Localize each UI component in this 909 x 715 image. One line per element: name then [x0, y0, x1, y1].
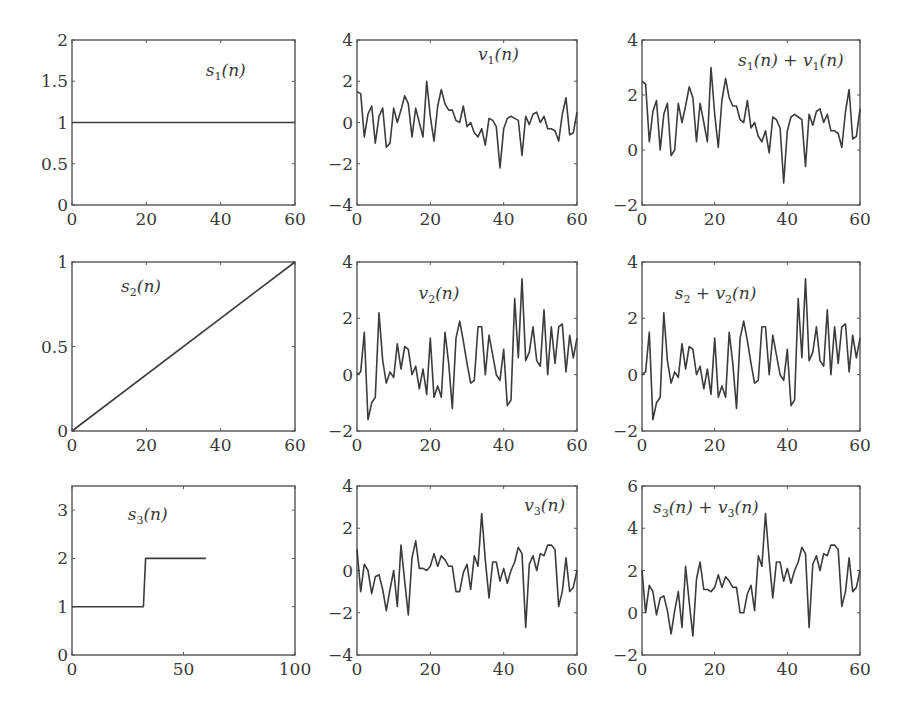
data-line-s2 — [72, 262, 295, 431]
x-tick-label: 0 — [67, 209, 78, 229]
x-tick-label: 20 — [704, 435, 726, 455]
x-tick-label: 60 — [849, 209, 871, 229]
x-tick-label: 60 — [849, 659, 871, 679]
y-tick-label: −2 — [328, 421, 353, 441]
x-tick-label: 20 — [420, 209, 442, 229]
x-tick-label: 40 — [210, 435, 232, 455]
panel-label-s1: s1(n) — [206, 60, 246, 83]
x-tick-label: 40 — [777, 209, 799, 229]
x-tick-label: 60 — [566, 659, 588, 679]
y-tick-label: 2 — [342, 518, 353, 538]
y-tick-label: 1.5 — [41, 71, 68, 91]
y-tick-label: 2 — [627, 85, 638, 105]
subplot-s2v2: 0204060−2024s2 + v2(n) — [613, 252, 871, 455]
x-tick-label: 20 — [136, 209, 158, 229]
x-tick-label: 0 — [637, 435, 648, 455]
y-tick-label: 2 — [627, 308, 638, 328]
x-tick-label: 0 — [352, 209, 363, 229]
y-tick-label: 2 — [57, 30, 68, 50]
subplot-v1: 0204060−4−2024v1(n) — [328, 30, 588, 229]
panel-label-s1v1: s1(n) + v1(n) — [738, 50, 844, 73]
x-tick-label: 60 — [566, 435, 588, 455]
subplot-s1v1: 0204060−2024s1(n) + v1(n) — [613, 30, 871, 229]
x-tick-label: 0 — [67, 659, 78, 679]
y-tick-label: 4 — [627, 30, 638, 50]
panel-label-v2: v2(n) — [419, 283, 460, 306]
x-tick-label: 60 — [566, 209, 588, 229]
y-tick-label: 1 — [57, 597, 68, 617]
y-tick-label: 2 — [342, 71, 353, 91]
x-tick-label: 0 — [67, 435, 78, 455]
x-tick-label: 20 — [704, 659, 726, 679]
y-tick-label: 1 — [57, 113, 68, 133]
y-tick-label: −2 — [328, 603, 353, 623]
y-tick-label: 6 — [627, 476, 638, 496]
axes-frame — [72, 486, 295, 655]
x-tick-label: 50 — [173, 659, 195, 679]
y-tick-label: −2 — [613, 421, 638, 441]
y-tick-label: 0 — [57, 645, 68, 665]
y-tick-label: −4 — [328, 195, 353, 215]
data-line-s3v3 — [642, 514, 860, 637]
panel-label-s2: s2(n) — [121, 276, 161, 299]
x-tick-label: 40 — [777, 435, 799, 455]
data-line-v3 — [357, 514, 577, 628]
panel-label-s3: s3(n) — [128, 504, 168, 527]
x-tick-label: 0 — [352, 659, 363, 679]
y-tick-label: 0 — [627, 140, 638, 160]
axes-frame — [357, 262, 577, 431]
x-tick-label: 0 — [637, 659, 648, 679]
y-tick-label: 4 — [342, 252, 353, 272]
y-tick-label: 4 — [627, 252, 638, 272]
subplot-s1: 020406000.511.52s1(n) — [41, 30, 306, 229]
y-tick-label: 0.5 — [41, 154, 68, 174]
y-tick-label: 1 — [57, 252, 68, 272]
x-tick-label: 0 — [352, 435, 363, 455]
figure-3x3-grid: 020406000.511.52s1(n)0204060−4−2024v1(n)… — [0, 0, 909, 715]
panel-label-s3v3: s3(n) + v3(n) — [653, 497, 759, 520]
y-tick-label: 0 — [342, 365, 353, 385]
y-tick-label: 0 — [57, 195, 68, 215]
y-tick-label: −4 — [328, 645, 353, 665]
y-tick-label: 4 — [627, 518, 638, 538]
x-tick-label: 60 — [284, 435, 306, 455]
y-tick-label: 0 — [342, 561, 353, 581]
subplot-s2: 020406000.51s2(n) — [41, 252, 306, 455]
subplot-v3: 0204060−4−2024v3(n) — [328, 476, 588, 679]
data-line-s3 — [72, 558, 206, 606]
y-tick-label: 0.5 — [41, 337, 68, 357]
y-tick-label: 2 — [57, 548, 68, 568]
x-tick-label: 100 — [279, 659, 311, 679]
x-tick-label: 20 — [420, 659, 442, 679]
y-tick-label: 3 — [57, 500, 68, 520]
x-tick-label: 40 — [210, 209, 232, 229]
panel-label-s2v2: s2 + v2(n) — [675, 283, 757, 306]
x-tick-label: 20 — [136, 435, 158, 455]
x-tick-label: 40 — [493, 209, 515, 229]
y-tick-label: 0 — [627, 603, 638, 623]
y-tick-label: 0 — [57, 421, 68, 441]
x-tick-label: 20 — [704, 209, 726, 229]
subplot-s3: 0501000123s3(n) — [57, 486, 311, 679]
x-tick-label: 40 — [493, 659, 515, 679]
panel-label-v1: v1(n) — [478, 44, 519, 67]
data-line-v2 — [357, 279, 577, 420]
x-tick-label: 20 — [420, 435, 442, 455]
y-tick-label: 2 — [342, 308, 353, 328]
panel-label-v3: v3(n) — [524, 495, 565, 518]
data-line-v1 — [357, 81, 577, 168]
x-tick-label: 40 — [777, 659, 799, 679]
y-tick-label: 2 — [627, 561, 638, 581]
y-tick-label: 0 — [627, 365, 638, 385]
y-tick-label: −2 — [613, 645, 638, 665]
x-tick-label: 60 — [284, 209, 306, 229]
x-tick-label: 0 — [637, 209, 648, 229]
data-line-s1v1 — [642, 68, 860, 184]
x-tick-label: 60 — [849, 435, 871, 455]
subplot-v2: 0204060−2024v2(n) — [328, 252, 588, 455]
y-tick-label: 0 — [342, 113, 353, 133]
x-tick-label: 40 — [493, 435, 515, 455]
y-tick-label: −2 — [613, 195, 638, 215]
subplot-s3v3: 0204060−20246s3(n) + v3(n) — [613, 476, 871, 679]
y-tick-label: −2 — [328, 154, 353, 174]
